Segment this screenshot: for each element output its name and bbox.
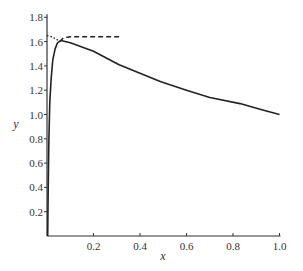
axes: 0.20.40.60.81.01.21.41.61.80.20.40.60.81… bbox=[12, 11, 287, 263]
series-line-dotted bbox=[47, 36, 60, 42]
series-line-dashed bbox=[60, 37, 119, 42]
y-axis-label: y bbox=[12, 117, 19, 131]
y-tick-label: 1.4 bbox=[29, 60, 43, 72]
series-group bbox=[47, 36, 280, 237]
x-tick-label: 0.6 bbox=[180, 240, 194, 252]
y-tick-label: 0.8 bbox=[29, 133, 43, 145]
x-axis-label: x bbox=[159, 249, 166, 263]
line-chart: 0.20.40.60.81.01.21.41.61.80.20.40.60.81… bbox=[0, 0, 303, 271]
x-tick-label: 1.0 bbox=[273, 240, 287, 252]
y-tick-label: 1.2 bbox=[29, 84, 43, 96]
y-tick-label: 0.2 bbox=[29, 206, 43, 218]
y-tick-label: 0.4 bbox=[29, 181, 43, 193]
x-tick-label: 0.4 bbox=[133, 240, 147, 252]
x-tick-label: 0.2 bbox=[87, 240, 101, 252]
series-line-solid bbox=[48, 40, 280, 236]
y-tick-label: 1.0 bbox=[29, 109, 43, 121]
y-tick-label: 1.6 bbox=[29, 36, 43, 48]
x-tick-label: 0.8 bbox=[226, 240, 240, 252]
y-tick-label: 1.8 bbox=[29, 11, 43, 23]
y-tick-label: 0.6 bbox=[29, 157, 43, 169]
